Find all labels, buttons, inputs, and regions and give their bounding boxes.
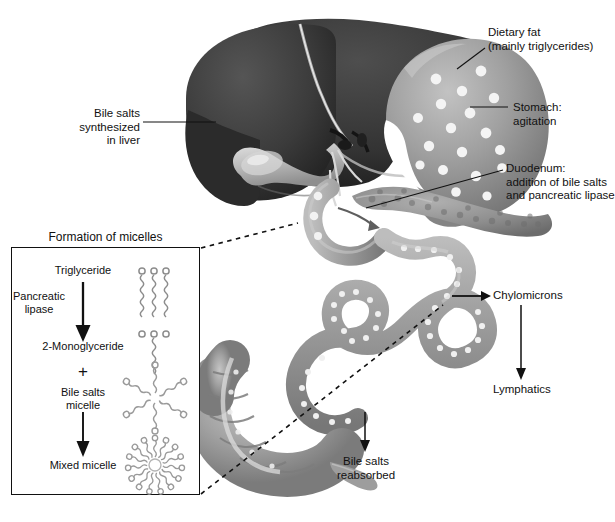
inset-label-monoglyceride: 2-Monoglyceride	[18, 340, 148, 353]
molecule-triglyceride	[139, 268, 169, 317]
inset-label-triglyceride: Triglyceride	[23, 264, 143, 277]
molecule-bile-salts-micelle	[122, 362, 187, 434]
arrow-lipase-step	[76, 282, 91, 342]
inset-label-plus: +	[53, 363, 113, 380]
inset-label-bile-salts-micelle: Bile salts micelle	[38, 386, 128, 412]
arrow-micelle-step	[77, 412, 90, 457]
inset-label-mixed-micelle: Mixed micelle	[23, 459, 143, 472]
inset-label-pancreatic-lipase: Pancreatic lipase	[8, 290, 70, 316]
